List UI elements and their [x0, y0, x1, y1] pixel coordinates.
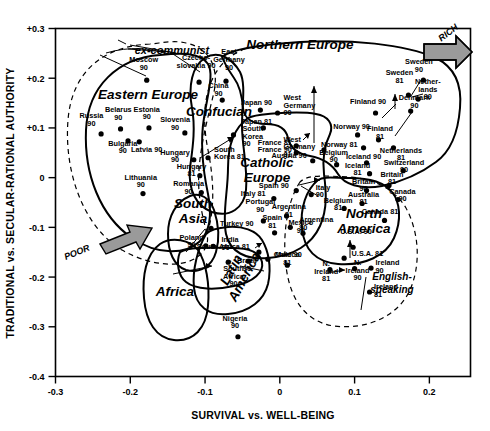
data-point: [235, 334, 240, 339]
data-point-label: Lithuania90: [125, 173, 158, 190]
data-point: [310, 158, 315, 163]
data-point: [355, 132, 360, 137]
data-point: [342, 256, 347, 261]
data-point: [137, 139, 142, 144]
data-point-label: Iceland 90: [346, 152, 381, 161]
connector: [118, 40, 126, 44]
hull-confucian: [190, 55, 247, 214]
data-point: [361, 145, 366, 150]
data-point: [373, 110, 378, 115]
data-point: [382, 218, 387, 223]
data-point: [367, 171, 372, 176]
data-point-label: Japan 90: [241, 98, 272, 107]
data-point: [196, 80, 201, 85]
x-tick-label: -0.3: [48, 387, 64, 397]
connector-denmark: [395, 112, 412, 136]
chart-svg: -0.3-0.2-0.100.10.2+0.3+0.2+0.10-0.1-0.2…: [0, 0, 490, 431]
y-tick-label: -0.3: [29, 322, 45, 332]
y-tick-label: -0.4: [29, 372, 45, 382]
data-point-label: South Africa 81: [197, 242, 250, 251]
data-point: [272, 230, 277, 235]
y-tick-label: -0.1: [29, 223, 45, 233]
data-point-label: Nigeria90: [223, 314, 249, 331]
data-point-label: Belarus90: [105, 105, 132, 122]
label-eastern-europe: Eastern Europe: [98, 87, 198, 102]
x-axis-title: SURVIVAL vs. WELL-BEING: [191, 409, 334, 421]
data-point: [146, 125, 151, 130]
data-point: [309, 192, 314, 197]
data-point-label: Hungary81: [177, 162, 208, 179]
x-tick-label: -0.2: [123, 387, 139, 397]
connector-norway: [382, 104, 396, 118]
data-point-label: Slovenia90: [160, 115, 191, 132]
data-point: [99, 131, 104, 136]
y-tick-label: -0.2: [29, 273, 45, 283]
data-point-label: U.S.A. 81: [352, 249, 384, 258]
data-point-label: SouthKorea 81: [214, 145, 245, 162]
data-point: [144, 78, 149, 83]
data-point-label: Finland 90: [350, 97, 386, 106]
data-point-label: Ireland81: [374, 282, 398, 299]
data-point-label: Canada90: [389, 187, 416, 204]
label-northern-europe: Northern Europe: [246, 37, 354, 52]
data-point-label: EastGermany90: [213, 47, 246, 71]
data-point: [140, 191, 145, 196]
data-point: [208, 226, 213, 231]
arrowhead: [339, 267, 345, 273]
data-point-label: Canada 81: [362, 207, 399, 216]
data-point-label: Chile 90: [274, 250, 302, 259]
data-point-label: Moscow90: [129, 55, 158, 72]
data-point-label: Russia90: [79, 111, 104, 128]
data-point-label: Spain 90: [259, 181, 289, 190]
label-south-asia: SouthAsia: [174, 196, 212, 226]
poor-label: POOR: [63, 242, 92, 261]
data-point-label: Estonia90: [134, 105, 161, 122]
data-point-label: Denmark90: [399, 93, 431, 110]
data-point-label: Finland81: [367, 124, 393, 141]
data-point-label: Britain81: [380, 170, 403, 187]
data-point: [275, 110, 280, 115]
data-point-label: Norway 90: [333, 122, 370, 131]
data-point-label: Norway 81: [321, 140, 358, 149]
arrowhead: [311, 86, 317, 93]
data-point: [258, 107, 263, 112]
x-tick-label: -0.1: [197, 387, 213, 397]
data-point-label: Italy 81: [241, 189, 266, 198]
data-point: [118, 126, 123, 131]
data-point-label: Spain81: [262, 213, 282, 230]
data-point-label: China90: [208, 81, 229, 98]
data-point: [256, 250, 261, 255]
connector-ireland: [361, 277, 366, 310]
data-point-label: Latvia 90: [131, 145, 162, 154]
y-tick-label: +0.3: [27, 24, 45, 34]
data-point-label: Turkey 90: [220, 219, 254, 228]
y-axis-title: TRADITIONAL vs. SECULAR-RATIONAL AUTHORI…: [4, 67, 16, 338]
y-tick-label: +0.2: [27, 74, 45, 84]
y-tick-label: 0: [39, 173, 44, 183]
x-tick-label: 0.1: [348, 387, 361, 397]
data-point: [265, 257, 270, 262]
data-point: [205, 155, 210, 160]
x-tick-label: 0: [277, 387, 282, 397]
data-point-label: Australia81: [348, 190, 380, 207]
data-point-label: Austria 90: [271, 151, 306, 160]
data-point: [294, 188, 299, 193]
arrowhead: [392, 94, 398, 101]
data-point: [199, 190, 204, 195]
data-point: [231, 132, 236, 137]
data-point: [197, 173, 202, 178]
data-point: [182, 130, 187, 135]
data-point-label: U.S.A. 90: [340, 227, 372, 236]
data-point-label: Portugal90: [246, 197, 276, 214]
data-point: [342, 206, 347, 211]
cultural-map-chart: -0.3-0.2-0.100.10.2+0.3+0.2+0.10-0.1-0.2…: [0, 0, 490, 431]
data-point-label: Sweden81: [386, 68, 414, 85]
data-point-label: Mexico90: [288, 218, 313, 235]
label-africa: Africa: [155, 284, 195, 299]
x-tick-label: 0.2: [423, 387, 436, 397]
data-point: [220, 97, 225, 102]
data-point-label: Iceland81: [345, 161, 370, 178]
data-point: [367, 289, 372, 294]
y-tick-label: +0.1: [27, 123, 45, 133]
data-point-label: Czecho-slovakia 90: [177, 53, 216, 70]
